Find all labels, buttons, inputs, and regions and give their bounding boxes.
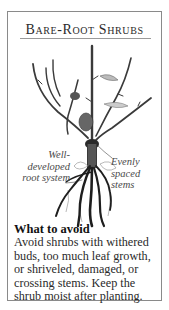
root-system-label: Well-developed root system [12, 149, 70, 184]
shrub-illustration: Well-developed root system Evenly spaced… [8, 40, 163, 228]
card-title: Bare-Root Shrubs [8, 22, 161, 38]
bare-root-shrub-icon [8, 40, 163, 228]
avoid-body-text: Avoid shrubs with withered buds, too muc… [14, 236, 160, 304]
info-card: Bare-Root Shrubs [7, 11, 162, 301]
stems-label: Evenly spaced stems [111, 156, 161, 191]
title-divider [20, 38, 151, 39]
